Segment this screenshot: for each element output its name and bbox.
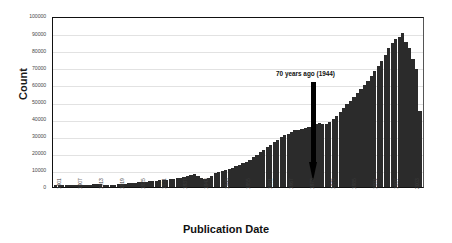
x-axis-title: Publication Date [0,223,452,235]
x-tick-label: 1997 [393,178,399,189]
x-tick-label: 1979 [330,178,336,189]
bar-series [53,18,423,187]
x-tick-label: 1943 [203,178,209,189]
x-tick-label: 1973 [309,178,315,189]
annotation-label: 70 years ago (1944) [276,70,335,77]
y-tick-label: 20000 [32,151,46,156]
y-tick-label: 50000 [32,100,46,105]
y-tick-label: 40000 [32,117,46,122]
y-tick-label: 0 [43,185,46,190]
x-tick-label: 1901 [56,178,62,189]
x-tick-label: 1919 [119,178,125,189]
annotation-arrow-down-icon [309,82,318,182]
arrow-shaft [311,82,316,164]
y-axis-tick-labels: 1000009000080000700006000050000400003000… [0,0,50,243]
x-tick-label: 2003 [414,178,420,189]
x-tick-label: 1985 [351,178,357,189]
x-tick-label: 1949 [224,178,230,189]
x-tick-label: 1955 [245,178,251,189]
x-tick-label: 1961 [267,178,273,189]
y-tick-label: 10000 [32,168,46,173]
x-tick-label: 1967 [288,178,294,189]
y-tick-label: 100000 [29,14,46,19]
x-tick-label: 1991 [372,178,378,189]
bar [418,111,421,187]
x-tick-label: 1931 [161,178,167,189]
y-tick-label: 30000 [32,134,46,139]
y-tick-label: 70000 [32,66,46,71]
publication-date-histogram: Count 1000009000080000700006000050000400… [0,0,452,243]
x-tick-label: 1937 [182,178,188,189]
x-tick-label: 1907 [77,178,83,189]
x-tick-label: 1925 [140,178,146,189]
x-axis-tick-labels: 1901190719131919192519311937194319491955… [52,189,424,219]
y-tick-label: 60000 [32,83,46,88]
y-tick-label: 90000 [32,32,46,37]
y-tick-label: 80000 [32,49,46,54]
plot-area [52,17,424,188]
x-tick-label: 1913 [98,178,104,189]
